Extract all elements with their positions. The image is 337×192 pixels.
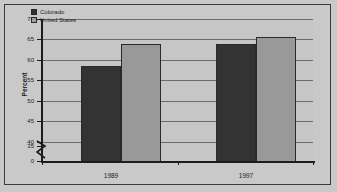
y-tick-mark-55 [37,80,41,81]
x-tick-mark-mid [178,161,179,165]
legend-item-colorado: Colorado [31,8,76,16]
bar-group-container [41,19,313,162]
x-tick-label-1997: 1997 [216,172,276,180]
x-tick-label-1989: 1989 [81,172,141,180]
legend-swatch-colorado [31,9,37,15]
bar-colorado-1989 [81,66,121,162]
legend-swatch-united-states [31,17,37,23]
y-tick-label-0: 0 [14,158,34,164]
y-tick-label-65: 65 [14,36,34,42]
x-tick-mark-left [42,161,43,165]
y-tick-mark-65 [37,39,41,40]
y-tick-label-35: 35 [14,143,34,149]
legend-item-united-states: United States [31,16,76,24]
y-tick-label-45: 45 [14,118,34,124]
bar-united-states-1989 [121,44,161,162]
axis-break-icon [34,140,48,160]
chart-legend: Colorado United States [31,8,76,24]
y-tick-mark-60 [37,60,41,61]
y-tick-mark-0 [37,161,41,162]
y-axis-label: Percent [21,55,28,115]
legend-label-united-states: United States [40,16,76,24]
chart-figure: 70 65 60 55 50 45 40 35 0 1989 1997 Perc… [4,4,331,185]
x-tick-mark-right [313,161,314,165]
legend-label-colorado: Colorado [40,8,64,16]
bar-united-states-1997 [256,37,296,163]
bar-colorado-1997 [216,44,256,163]
y-tick-mark-50 [37,101,41,102]
y-tick-mark-45 [37,121,41,122]
